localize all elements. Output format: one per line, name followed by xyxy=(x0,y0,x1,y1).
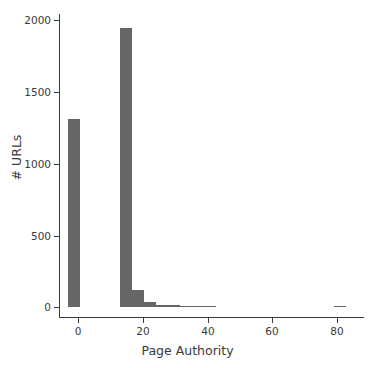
y-tick-label: 2000 xyxy=(24,15,51,26)
histogram-bar xyxy=(144,302,156,307)
y-tick-label: 0 xyxy=(44,302,51,313)
y-tick-label: 1500 xyxy=(24,87,51,98)
x-tick-mark xyxy=(143,318,144,323)
x-tick-label: 80 xyxy=(317,326,357,337)
y-tick-mark xyxy=(54,92,59,93)
y-tick-mark xyxy=(54,236,59,237)
histogram-bar xyxy=(68,119,80,307)
plot-area: 2000 1500 1000 500 0 0 20 40 60 80 Page … xyxy=(0,0,375,368)
y-tick-mark xyxy=(54,20,59,21)
x-tick-label: 0 xyxy=(58,326,98,337)
histogram-bar xyxy=(168,305,180,307)
chart-figure: 2000 1500 1000 500 0 0 20 40 60 80 Page … xyxy=(0,0,375,368)
x-axis-label: Page Authority xyxy=(0,343,375,358)
x-axis-spine xyxy=(59,317,364,318)
x-tick-label: 20 xyxy=(123,326,163,337)
y-tick-label: 500 xyxy=(31,231,51,242)
histogram-bar xyxy=(334,306,346,307)
y-tick-label: 1000 xyxy=(24,159,51,170)
histogram-bar xyxy=(120,28,132,307)
histogram-bar xyxy=(132,290,144,307)
histogram-bar xyxy=(204,306,216,307)
histogram-bar xyxy=(156,305,168,307)
x-tick-mark xyxy=(272,318,273,323)
y-tick-mark xyxy=(54,164,59,165)
histogram-bar xyxy=(180,306,192,307)
histogram-bar xyxy=(192,306,204,307)
x-tick-mark xyxy=(78,318,79,323)
y-axis-spine xyxy=(59,14,60,318)
x-tick-label: 60 xyxy=(252,326,292,337)
x-tick-mark xyxy=(337,318,338,323)
y-axis-label: # URLs xyxy=(9,88,24,228)
x-tick-mark xyxy=(208,318,209,323)
x-tick-label: 40 xyxy=(188,326,228,337)
y-tick-mark xyxy=(54,307,59,308)
